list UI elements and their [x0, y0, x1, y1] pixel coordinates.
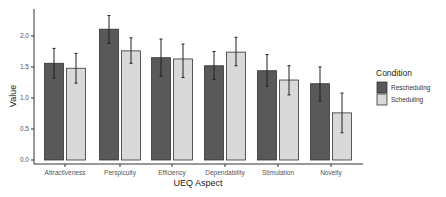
- x-tick-label: Efficiency: [158, 169, 186, 177]
- bars-group: [45, 29, 352, 160]
- x-tick-label: Attractiveness: [45, 169, 87, 176]
- y-axis-label: Value: [8, 85, 18, 107]
- x-axis-label: UEQ Aspect: [173, 178, 223, 188]
- bar-scheduling-dependability: [227, 52, 246, 160]
- x-ticks: AttractivenessPerspicuityEfficiencyDepen…: [45, 164, 343, 177]
- y-tick-label: 1.5: [20, 63, 29, 70]
- y-ticks: 0.00.51.01.52.0: [20, 32, 34, 163]
- chart-canvas: 0.00.51.01.52.0 AttractivenessPerspicuit…: [0, 0, 446, 197]
- bar-rescheduling-perspicuity: [100, 29, 119, 160]
- legend-title: Condition: [376, 68, 412, 78]
- x-tick-label: Perspicuity: [104, 169, 137, 177]
- x-tick-label: Stimulation: [262, 169, 295, 176]
- error-bars-group: [53, 16, 344, 133]
- x-tick-label: Dependability: [205, 169, 245, 177]
- y-tick-label: 0.5: [20, 125, 29, 132]
- legend-label-scheduling: Scheduling: [391, 96, 424, 104]
- legend-label-rescheduling: Rescheduling: [391, 84, 431, 92]
- legend: Condition Rescheduling Scheduling: [376, 68, 431, 105]
- y-tick-label: 0.0: [20, 156, 29, 163]
- x-tick-label: Novelty: [320, 169, 342, 177]
- legend-key-rescheduling: [377, 82, 387, 93]
- bar-chart: 0.00.51.01.52.0 AttractivenessPerspicuit…: [0, 0, 446, 197]
- legend-key-scheduling: [377, 94, 387, 105]
- bar-scheduling-perspicuity: [122, 51, 141, 160]
- y-tick-label: 2.0: [20, 32, 29, 39]
- y-tick-label: 1.0: [20, 94, 29, 101]
